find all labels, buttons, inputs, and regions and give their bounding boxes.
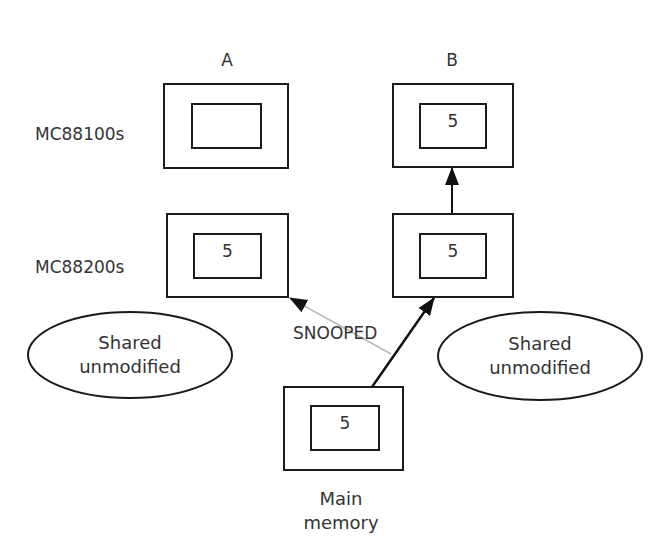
connector-layer [0,0,672,555]
cache-a-value: 5 [222,241,233,261]
snoop-label: SNOOPED [293,323,377,343]
main-memory-value: 5 [340,413,351,433]
cache-b-line: 5 [419,233,487,279]
cache-a-line: 5 [193,233,262,279]
column-label-b: B [446,50,458,70]
row-label-processor: MC88100s [35,124,124,144]
processor-b-register: 5 [419,103,487,149]
arrow-memory-to-cache-b [372,298,434,387]
state-right-line1: Shared [489,332,591,356]
state-right-text: Shared unmodified [489,332,591,380]
row-label-cache: MC88200s [35,257,124,277]
main-memory-label-line2: memory [303,511,378,535]
main-memory-label: Main memory [303,487,378,535]
state-left-text: Shared unmodified [79,331,181,379]
state-left-line2: unmodified [79,355,181,379]
column-label-a: A [221,50,233,70]
cache-coherency-diagram: A B MC88100s MC88200s 5 5 5 Shared unmod… [0,0,672,555]
main-memory-label-line1: Main [303,487,378,511]
state-right-line2: unmodified [489,356,591,380]
processor-a-register [191,103,262,149]
cache-b-value: 5 [448,241,459,261]
main-memory-cell: 5 [310,405,380,451]
processor-b-value: 5 [448,111,459,131]
state-left-line1: Shared [79,331,181,355]
